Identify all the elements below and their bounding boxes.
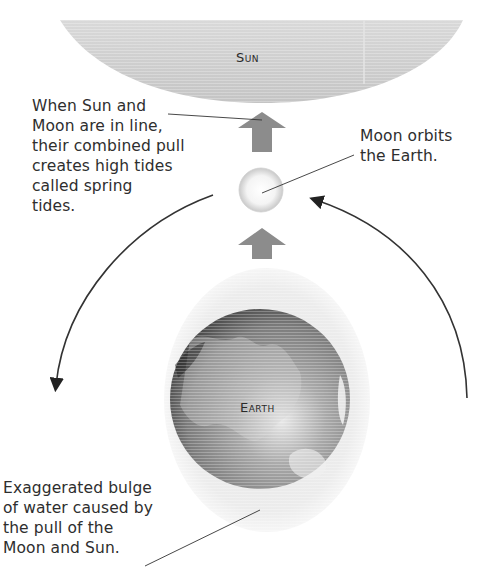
leader-line-bulge xyxy=(145,510,260,566)
callout-moon-orbit: Moon orbits the Earth. xyxy=(360,126,452,166)
earth xyxy=(170,309,350,489)
callout-bulge: Exaggerated bulge of water caused by the… xyxy=(3,478,153,558)
sun xyxy=(60,20,463,103)
moon xyxy=(239,168,283,212)
pull-arrow-bottom-icon xyxy=(238,228,286,259)
earth-label: Earth xyxy=(240,400,275,415)
callout-spring-tides: When Sun and Moon are in line, their com… xyxy=(32,96,185,216)
sun-label: Sun xyxy=(236,50,259,65)
pull-arrow-top-icon xyxy=(238,112,286,152)
